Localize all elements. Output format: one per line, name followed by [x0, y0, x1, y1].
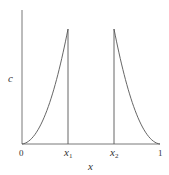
tick-label-one: 1: [158, 148, 163, 158]
tick-label-x1: x1: [63, 146, 73, 160]
tick-label-x2: x2: [109, 146, 119, 160]
y-axis-label: c: [8, 72, 13, 84]
left-profile-curve: [22, 29, 68, 144]
x-axis-label: x: [87, 160, 93, 172]
tick-label-zero: 0: [19, 148, 24, 158]
concentration-profile-diagram: 0 x1 x2 1 x c: [0, 0, 169, 175]
right-profile-curve: [114, 29, 160, 144]
